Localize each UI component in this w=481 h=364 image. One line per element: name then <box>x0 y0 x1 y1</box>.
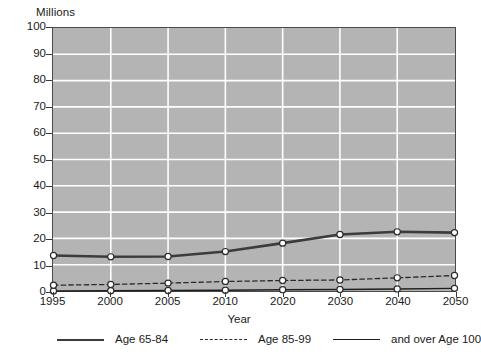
x-axis-tick-label: 2030 <box>328 295 354 308</box>
x-axis-tick-label: 2020 <box>270 295 296 308</box>
x-axis-tick-label: 2010 <box>212 295 238 308</box>
legend-label: and over Age 100 <box>391 333 481 346</box>
y-axis-tick-mark <box>46 266 52 267</box>
y-axis-title: Millions <box>36 6 75 19</box>
x-axis-tick-labels: 19952000200520102020203020402050 <box>0 295 478 311</box>
legend-line-swatch-solid-thick-icon <box>57 334 104 344</box>
y-axis-tick-mark <box>46 107 52 108</box>
y-axis-tick-mark <box>46 133 52 134</box>
x-axis-title: Year <box>0 313 478 325</box>
legend-item-age-100-and-over: and over Age 100 <box>333 331 481 347</box>
y-axis-tick-mark <box>46 186 52 187</box>
legend-item-age-65-84: Age 65-84 <box>57 331 168 347</box>
legend-item-age-85-99: Age 85-99 <box>200 331 311 347</box>
x-axis-tick-label: 2000 <box>97 295 123 308</box>
legend-label: Age 65-84 <box>115 333 168 346</box>
y-axis-tick-mark <box>46 213 52 214</box>
legend-line-swatch-dashed-icon <box>200 334 247 344</box>
y-axis-tick-mark <box>46 239 52 240</box>
chart-legend: Age 65-84 Age 85-99 and over Age 100 <box>0 331 478 355</box>
y-axis-tick-mark <box>46 80 52 81</box>
y-axis-tick-mark <box>46 54 52 55</box>
x-axis-tick-label: 1995 <box>40 295 66 308</box>
y-axis-tick-mark <box>46 27 52 28</box>
x-axis-tick-label: 2040 <box>385 295 411 308</box>
x-axis-tick-label: 2050 <box>443 295 469 308</box>
y-axis-tick-marks <box>0 27 478 292</box>
x-axis-tick-label: 2005 <box>155 295 181 308</box>
legend-line-swatch-solid-thin-icon <box>333 334 380 344</box>
legend-label: Age 85-99 <box>258 333 311 346</box>
y-axis-tick-mark <box>46 160 52 161</box>
